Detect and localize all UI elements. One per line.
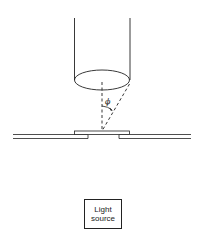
cylinder-end-ellipse bbox=[75, 70, 130, 90]
light-source-label-line1: Light bbox=[94, 205, 111, 214]
cone-edge bbox=[102, 84, 130, 131]
arrow-head-icon bbox=[110, 107, 113, 111]
sample-slide bbox=[75, 131, 130, 135]
sample-plate bbox=[13, 131, 191, 139]
angle-phi-label: ϕ bbox=[105, 97, 110, 106]
angle-arc bbox=[102, 106, 113, 111]
light-source-box: Light source bbox=[84, 199, 122, 229]
cylinder bbox=[75, 18, 131, 90]
light-source-label-line2: source bbox=[91, 214, 115, 223]
